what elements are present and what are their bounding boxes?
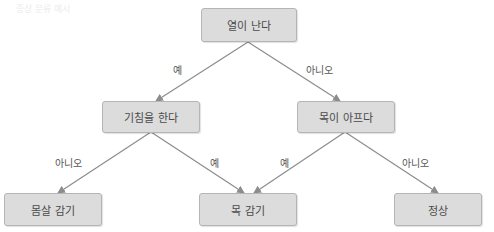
- node-throat-cold: 목 감기: [199, 193, 297, 226]
- edge-label-root-left: 예: [173, 62, 182, 77]
- edge-left-throat: [151, 132, 244, 193]
- edge-label-root-right: 아니오: [306, 62, 333, 77]
- edge-right-throat: [254, 132, 345, 193]
- edge-label-left-throat: 예: [210, 155, 219, 170]
- edge-label-right-throat: 예: [280, 155, 289, 170]
- node-throat-cold-label: 목 감기: [231, 202, 265, 218]
- node-normal-label: 정상: [428, 202, 448, 218]
- node-sore-throat: 목이 아프다: [297, 101, 395, 133]
- node-body-cold-label: 몸살 감기: [31, 202, 75, 218]
- node-cough-label: 기침을 한다: [124, 109, 178, 125]
- node-normal: 정상: [394, 193, 482, 226]
- node-cough: 기침을 한다: [102, 101, 200, 133]
- node-fever-label: 열이 난다: [227, 17, 271, 33]
- node-body-cold: 몸살 감기: [4, 193, 102, 226]
- edge-root-left: [156, 42, 248, 101]
- node-fever: 열이 난다: [201, 8, 297, 42]
- edge-label-left-body: 아니오: [55, 155, 82, 170]
- edge-label-right-normal: 아니오: [402, 155, 429, 170]
- node-sore-throat-label: 목이 아프다: [319, 109, 373, 125]
